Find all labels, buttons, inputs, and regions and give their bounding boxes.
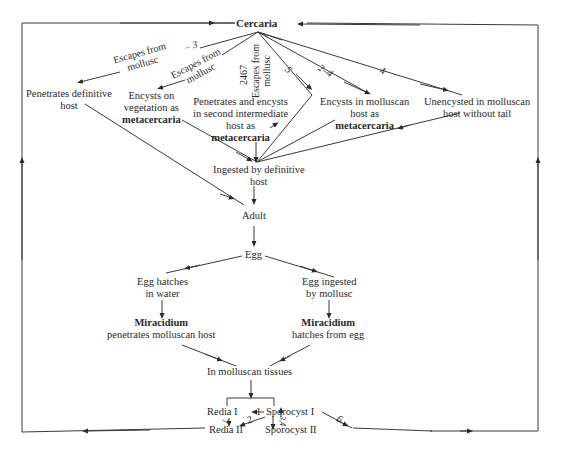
node-encysts-molluscan: Encysts in molluscan host as metacercari…: [320, 96, 409, 132]
edge-number-2467: 2467: [239, 65, 249, 85]
node-line: penetrates molluscan host: [107, 329, 215, 341]
node-line: in second intermediate: [193, 108, 288, 120]
edge-label-line: mollusc: [261, 44, 272, 98]
node-line: host: [213, 176, 305, 188]
node-line: Ingested by definitive: [213, 164, 305, 176]
edge-number-7: 7: [219, 419, 229, 423]
node-redia-1: Redia I: [207, 406, 238, 418]
node-egg-hatches-water: Egg hatches in water: [137, 276, 188, 300]
edge-label-line: Escapes from: [250, 44, 261, 98]
node-line-bold: metacercaria: [320, 120, 409, 132]
node-line-bold: Miracidium: [292, 317, 364, 329]
edge-label-escapes-3: Escapes from mollusc: [250, 44, 272, 98]
node-line: host as: [193, 120, 288, 132]
node-line: by mollusc: [302, 288, 357, 300]
node-line: Encysts on: [122, 90, 181, 102]
node-line: host as: [320, 108, 409, 120]
node-line: Penetrates and encysts: [193, 96, 288, 108]
node-line-bold: Miracidium: [107, 317, 215, 329]
node-encysts-vegetation: Encysts on vegetation as metacercaria: [122, 90, 181, 126]
node-line: host without tail: [424, 108, 530, 120]
node-line: Egg ingested: [302, 276, 357, 288]
node-redia-2: Redia II: [209, 424, 243, 436]
node-miracidium-penetrates: Miracidium penetrates molluscan host: [107, 317, 215, 341]
node-line-bold: metacercaria: [193, 132, 288, 144]
diagram-connectors: [0, 0, 563, 452]
edge-number-3-4: 3,4: [277, 416, 287, 426]
node-cercaria: Cercaria: [236, 17, 277, 29]
node-line: vegetation as: [122, 102, 181, 114]
node-unencysted: Unencysted in molluscan host without tai…: [424, 96, 530, 120]
node-sporocyst-2: Sporocyst II: [265, 424, 317, 436]
node-line: host: [26, 100, 112, 112]
node-line: Penetrates definitive: [26, 88, 112, 100]
node-line: Unencysted in molluscan: [424, 96, 530, 108]
node-sporocyst-1: Sporocyst I: [266, 406, 314, 418]
node-line: hatches from egg: [292, 329, 364, 341]
node-ingested-definitive-host: Ingested by definitive host: [213, 164, 305, 188]
node-penetrates-second-host: Penetrates and encysts in second interme…: [193, 96, 288, 144]
node-egg-ingested-mollusc: Egg ingested by mollusc: [302, 276, 357, 300]
node-miracidium-hatches: Miracidium hatches from egg: [292, 317, 364, 341]
node-line: Encysts in molluscan: [320, 96, 409, 108]
node-line-bold: metacercaria: [122, 114, 181, 126]
node-adult: Adult: [242, 210, 266, 222]
node-line: in water: [137, 288, 188, 300]
node-line: Egg hatches: [137, 276, 188, 288]
node-egg: Egg: [245, 249, 262, 261]
node-penetrates-definitive-host: Penetrates definitive host: [26, 88, 112, 112]
node-in-molluscan-tissues: In molluscan tissues: [207, 366, 292, 378]
edge-number-1: 1: [256, 407, 261, 417]
